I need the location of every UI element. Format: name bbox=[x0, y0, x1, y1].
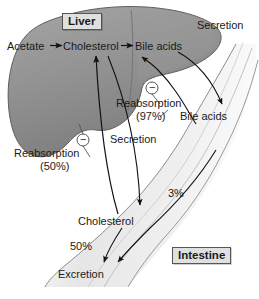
label-bile-acid-loss-percent: 3% bbox=[168, 187, 184, 199]
label-reabsorption-bile-title: Reabsorption bbox=[116, 97, 181, 109]
minus-sign-left-glyph: − bbox=[80, 133, 86, 145]
liver-label-box: Liver bbox=[62, 13, 102, 30]
label-cholesterol-loss-percent: 50% bbox=[70, 240, 92, 252]
label-reabsorption-bile-percent: (97%) bbox=[136, 110, 165, 122]
minus-sign-right-glyph: − bbox=[149, 81, 155, 93]
intestine-label-box: Intestine bbox=[172, 247, 231, 264]
figure-canvas: Liver Acetate Cholesterol Bile acids Sec… bbox=[0, 0, 259, 299]
label-intestinal-cholesterol: Cholesterol bbox=[78, 215, 134, 227]
label-reabsorption-cholesterol-percent: (50%) bbox=[40, 160, 69, 172]
label-reabsorption-cholesterol-title: Reabsorption bbox=[14, 147, 79, 159]
label-liver-bile-acids: Bile acids bbox=[135, 40, 182, 52]
label-bile-acids-intestine: Bile acids bbox=[180, 110, 227, 122]
label-excretion: Excretion bbox=[58, 268, 104, 280]
label-secretion-mid: Secretion bbox=[110, 133, 156, 145]
label-acetate: Acetate bbox=[7, 40, 44, 52]
leader-line-left-minus bbox=[83, 146, 90, 157]
label-secretion-top: Secretion bbox=[197, 19, 243, 31]
label-liver-cholesterol: Cholesterol bbox=[63, 40, 119, 52]
